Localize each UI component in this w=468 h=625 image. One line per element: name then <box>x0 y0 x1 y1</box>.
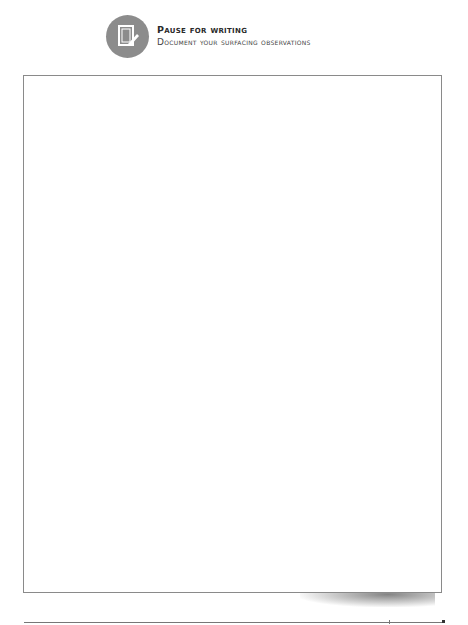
footer-dot <box>442 620 445 623</box>
section-title: Pause for writing <box>157 23 311 36</box>
writing-area[interactable] <box>23 75 442 593</box>
section-header: Pause for writing Document your surfacin… <box>106 14 311 58</box>
footer-tick <box>389 620 390 624</box>
page-curl-shadow <box>300 593 435 607</box>
footer-rule <box>24 622 444 623</box>
section-subtitle: Document your surfacing observations <box>157 36 311 49</box>
pencil-paper-icon <box>106 15 149 58</box>
